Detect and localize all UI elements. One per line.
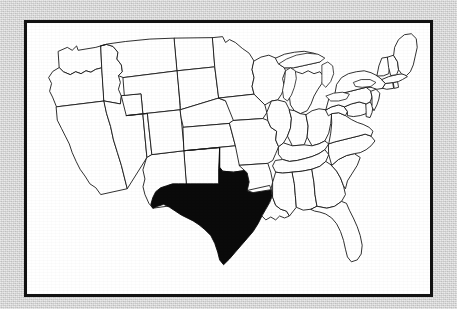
lake-huron-outline: [322, 62, 334, 87]
page-background: [0, 0, 457, 309]
map-frame: [24, 20, 433, 297]
state-indiana[interactable]: [287, 110, 308, 146]
state-north-dakota[interactable]: [174, 38, 214, 71]
state-florida[interactable]: [311, 201, 362, 261]
state-shapes: [49, 34, 418, 265]
state-new-jersey[interactable]: [371, 89, 380, 110]
state-oregon[interactable]: [49, 68, 105, 107]
state-minnesota[interactable]: [213, 37, 254, 98]
united-states-map: [27, 23, 430, 294]
